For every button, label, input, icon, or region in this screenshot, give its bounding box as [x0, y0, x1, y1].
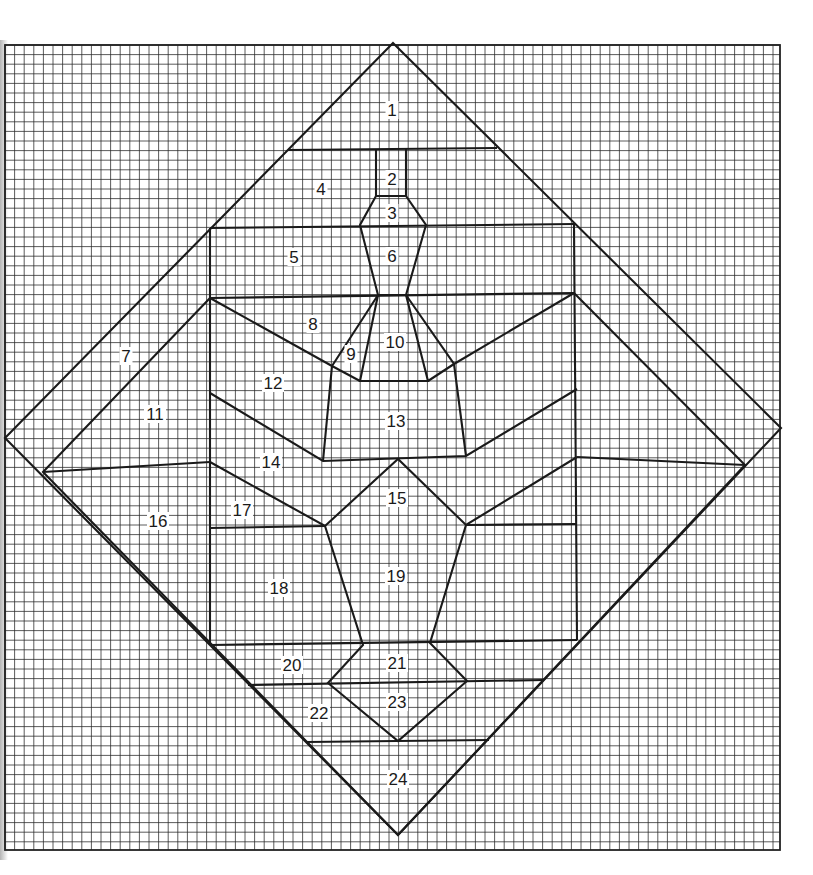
grid-border	[5, 45, 780, 850]
piece-label-22: 22	[310, 704, 329, 723]
seam-line	[306, 740, 489, 742]
piece-label-8: 8	[308, 315, 317, 334]
graph-paper-grid	[5, 45, 780, 850]
piece-label-5: 5	[289, 248, 298, 267]
piece-label-1: 1	[387, 101, 396, 120]
piece-label-2: 2	[387, 170, 396, 189]
piece-label-23: 23	[388, 693, 407, 712]
piece-label-9: 9	[346, 345, 355, 364]
piece-label-14: 14	[262, 453, 281, 472]
piece-label-10: 10	[386, 333, 405, 352]
piece-label-3: 3	[387, 204, 396, 223]
piece-label-15: 15	[388, 489, 407, 508]
seam-line	[332, 366, 360, 381]
piece-label-7: 7	[121, 347, 130, 366]
piece-label-24: 24	[389, 770, 408, 789]
seam-line	[428, 364, 454, 381]
piece-label-13: 13	[387, 412, 406, 431]
seam-line	[210, 640, 577, 645]
seam-line	[248, 680, 544, 685]
piece-label-19: 19	[387, 567, 406, 586]
piece-label-17: 17	[233, 501, 252, 520]
piece-label-18: 18	[270, 579, 289, 598]
piece-label-12: 12	[264, 374, 283, 393]
quilt-pattern-diagram: 123456789101112131415161718192021222324	[0, 0, 813, 875]
piece-label-6: 6	[387, 247, 396, 266]
seam-line	[574, 224, 577, 640]
piece-label-11: 11	[146, 405, 164, 424]
seam-line	[210, 526, 325, 528]
seam-line	[43, 293, 745, 835]
piece-label-20: 20	[283, 656, 302, 675]
piece-label-21: 21	[388, 654, 407, 673]
piece-label-16: 16	[149, 512, 168, 531]
seam-line	[466, 524, 577, 525]
piece-label-4: 4	[316, 180, 325, 199]
